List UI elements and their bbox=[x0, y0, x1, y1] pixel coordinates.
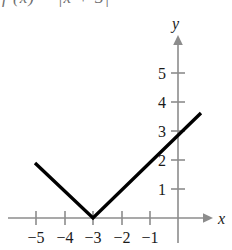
y-tick-label-5: 5 bbox=[158, 65, 166, 82]
absolute-value-curve bbox=[35, 113, 201, 218]
y-axis-arrowhead bbox=[173, 35, 183, 45]
y-tick-label-3: 3 bbox=[158, 123, 166, 140]
x-tick-label--1: −1 bbox=[141, 229, 158, 246]
figure-panel: f (x) = |x + 3| −5 −4 −3 bbox=[0, 0, 232, 250]
x-tick-label--3: −3 bbox=[84, 229, 101, 246]
plot-area: −5 −4 −3 −2 −1 1 2 3 4 5 x y bbox=[0, 0, 232, 250]
y-axis-label: y bbox=[170, 15, 180, 33]
x-axis-label: x bbox=[217, 210, 225, 227]
x-tick-label--2: −2 bbox=[113, 229, 130, 246]
axes-group bbox=[8, 35, 213, 243]
x-tick-label--4: −4 bbox=[56, 229, 73, 246]
y-tick-label-4: 4 bbox=[158, 94, 166, 111]
y-tick-label-1: 1 bbox=[158, 181, 166, 198]
x-axis-arrowhead bbox=[203, 213, 213, 223]
x-tick-label--5: −5 bbox=[27, 229, 44, 246]
